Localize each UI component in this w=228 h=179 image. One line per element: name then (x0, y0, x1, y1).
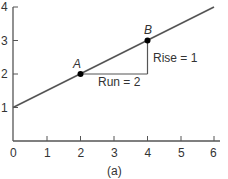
y-tick-4: 4 (1, 0, 8, 14)
slope-chart: 4 3 2 1 0 1 2 3 4 5 6 A B Run = 2 Rise =… (0, 0, 228, 179)
x-tick-5: 5 (178, 146, 185, 160)
x-tick-3: 3 (111, 146, 118, 160)
y-tick-1: 1 (1, 101, 8, 115)
x-tick-1: 1 (44, 146, 51, 160)
y-tick-3: 3 (1, 34, 8, 48)
x-tick-4: 4 (145, 146, 152, 160)
rise-label: Rise = 1 (153, 51, 198, 65)
figure-caption: (a) (107, 164, 122, 178)
x-tick-2: 2 (78, 146, 85, 160)
point-a-label: A (72, 57, 81, 71)
point-a-marker (78, 71, 84, 77)
point-b-label: B (144, 23, 152, 37)
run-label: Run = 2 (98, 75, 141, 89)
y-tick-2: 2 (1, 67, 8, 81)
x-tick-6: 6 (210, 146, 217, 160)
x-tick-0: 0 (10, 146, 17, 160)
point-b-marker (145, 38, 151, 44)
